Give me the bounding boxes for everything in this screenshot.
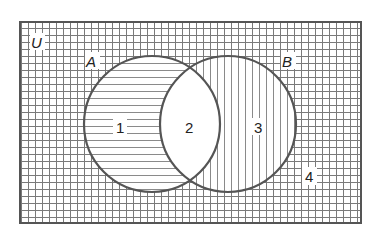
set-b-label: B [282,53,292,70]
region-3-label: 3 [254,119,262,136]
set-a-label: A [85,53,96,70]
region-2-label: 2 [185,119,193,136]
region-4-label: 4 [305,168,313,185]
universe-label: U [31,34,42,51]
region-1-label: 1 [116,119,124,136]
venn-diagram: U A B 1 2 3 4 [0,0,382,234]
